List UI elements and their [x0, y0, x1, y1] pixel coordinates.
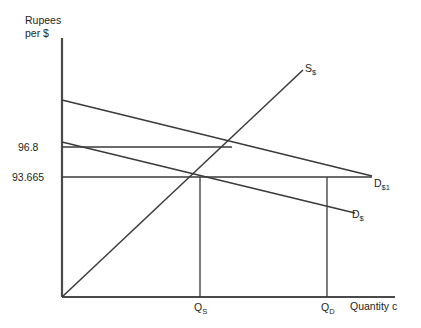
- supply-curve: [62, 70, 303, 297]
- supply-curve-label-text: S: [305, 62, 312, 74]
- demand-curve-label: D$: [352, 208, 364, 223]
- y-axis-title: Rupees per $: [25, 14, 61, 39]
- x-tick-label-qd-text: Q: [321, 301, 329, 313]
- y-axis-title-line1: Rupees: [25, 14, 61, 26]
- demand-shifted-curve-label-sub: $1: [382, 183, 390, 192]
- x-tick-label-qd-sub: D: [329, 307, 334, 316]
- y-axis-title-line2: per $: [25, 27, 49, 39]
- demand-curve-label-text: D: [352, 208, 360, 220]
- demand-curve-shifted: [62, 100, 372, 176]
- demand-shifted-curve-label: D$1: [374, 177, 390, 192]
- demand-shifted-curve-label-text: D: [374, 177, 382, 189]
- supply-curve-label-sub: $: [312, 68, 316, 77]
- supply-curve-label: S$: [305, 62, 316, 77]
- x-tick-label-qs-text: Q: [194, 301, 202, 313]
- y-tick-label-96-8: 96.8: [18, 141, 38, 154]
- y-tick-label-93-665: 93.665: [12, 171, 44, 184]
- x-tick-label-qs-sub: S: [202, 307, 207, 316]
- x-tick-label-qd: QD: [321, 301, 335, 316]
- x-tick-label-qs: QS: [194, 301, 207, 316]
- demand-curve-label-sub: $: [360, 214, 364, 223]
- x-axis-title: Quantity c: [350, 300, 397, 313]
- chart-canvas: [0, 0, 421, 328]
- supply-demand-chart: Rupees per $ 96.8 93.665 S$ D$1 D$ QS QD…: [0, 0, 421, 328]
